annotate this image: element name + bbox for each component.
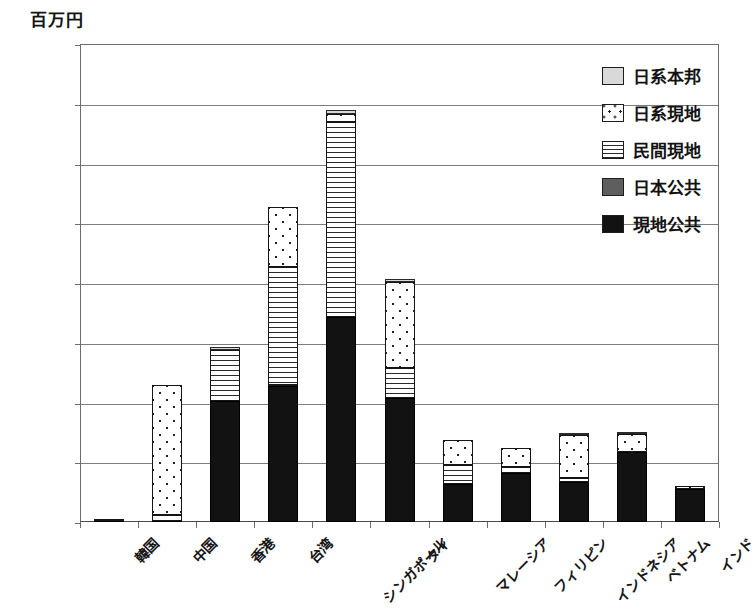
- bar-segment-日系本邦: [385, 279, 415, 282]
- bar-segment-現地公共: [501, 473, 531, 522]
- x-tick-mark: [370, 522, 371, 528]
- bar-segment-日系現地: [501, 448, 531, 467]
- x-axis-label-香港: 香港: [245, 533, 279, 567]
- legend-label-genchi_koukyou: 現地公共: [633, 211, 701, 236]
- x-tick-mark: [429, 522, 430, 528]
- x-axis-label-マレーシア: マレーシア: [490, 533, 554, 597]
- bar-segment-民間現地: [559, 478, 589, 482]
- x-axis-label-中国: 中国: [187, 533, 221, 567]
- legend: 日系本邦日系現地民間現地日本公共現地公共: [602, 57, 752, 242]
- bar-インド[interactable]: [675, 486, 705, 522]
- bar-韓国[interactable]: [94, 521, 124, 522]
- bar-フィリピン[interactable]: [501, 448, 531, 522]
- legend-item-nikkei_genchi[interactable]: 日系現地: [602, 94, 752, 131]
- bar-中国[interactable]: [152, 385, 182, 522]
- bar-segment-民間現地: [501, 467, 531, 473]
- bar-segment-日系現地: [268, 207, 298, 266]
- bar-segment-民間現地: [210, 350, 240, 401]
- bar-インドネシア[interactable]: [559, 434, 589, 522]
- bar-segment-現地公共: [675, 489, 705, 522]
- x-tick-mark: [80, 522, 81, 528]
- bar-segment-現地公共: [559, 482, 589, 522]
- y-axis-unit-title: 百万円: [30, 6, 84, 31]
- legend-swatch-nihon_koukyou: [602, 178, 624, 196]
- legend-swatch-nikkei_genchi: [602, 104, 624, 122]
- bar-香港[interactable]: [210, 347, 240, 522]
- bar-segment-日系現地: [326, 114, 356, 122]
- legend-swatch-genchi_koukyou: [602, 215, 624, 233]
- x-tick-mark: [487, 522, 488, 528]
- bar-segment-民間現地: [326, 122, 356, 318]
- bar-segment-日系本邦: [617, 432, 647, 434]
- x-tick-mark: [312, 522, 313, 528]
- bar-segment-現地公共: [443, 484, 473, 522]
- x-axis-label-インド: インド: [714, 533, 755, 577]
- bar-segment-日系現地: [385, 282, 415, 368]
- bar-segment-民間現地: [268, 267, 298, 385]
- bar-台湾[interactable]: [268, 207, 298, 522]
- bar-segment-日系現地: [675, 486, 705, 489]
- x-axis-label-台湾: 台湾: [304, 533, 338, 567]
- bar-シンガポール[interactable]: [326, 110, 356, 522]
- legend-label-minkan_genchi: 民間現地: [633, 137, 701, 162]
- bar-segment-日系現地: [152, 385, 182, 516]
- x-tick-mark: [603, 522, 604, 528]
- legend-swatch-nikkei_honpou: [602, 67, 624, 85]
- legend-item-nihon_koukyou[interactable]: 日本公共: [602, 168, 752, 205]
- x-axis-label-韓国: 韓国: [129, 533, 163, 567]
- bar-segment-日系現地: [559, 435, 589, 478]
- legend-label-nikkei_genchi: 日系現地: [633, 100, 701, 125]
- bar-segment-日系現地: [617, 434, 647, 452]
- x-tick-mark: [719, 522, 720, 528]
- bar-segment-民間現地: [443, 465, 473, 484]
- bar-タイ[interactable]: [385, 279, 415, 522]
- bar-segment-現地公共: [326, 317, 356, 522]
- bar-segment-現地公共: [210, 401, 240, 522]
- bar-segment-日系本邦: [326, 110, 356, 113]
- x-tick-mark: [661, 522, 662, 528]
- legend-label-nihon_koukyou: 日本公共: [633, 174, 701, 199]
- stacked-bar-chart: 百万円 020,00040,00060,00080,000100,000120,…: [0, 0, 755, 615]
- x-tick-mark: [254, 522, 255, 528]
- legend-item-nikkei_honpou[interactable]: 日系本邦: [602, 57, 752, 94]
- bar-segment-現地公共: [385, 398, 415, 522]
- x-tick-mark: [138, 522, 139, 528]
- legend-item-genchi_koukyou[interactable]: 現地公共: [602, 205, 752, 242]
- bar-segment-日系現地: [443, 440, 473, 465]
- bar-segment-民間現地: [152, 515, 182, 521]
- x-tick-mark: [196, 522, 197, 528]
- bar-segment-日系本邦: [559, 433, 589, 435]
- legend-label-nikkei_honpou: 日系本邦: [633, 63, 701, 88]
- bar-segment-現地公共: [268, 386, 298, 522]
- legend-item-minkan_genchi[interactable]: 民間現地: [602, 131, 752, 168]
- legend-swatch-minkan_genchi: [602, 141, 624, 159]
- bar-segment-日系本邦: [210, 347, 240, 350]
- bar-segment-現地公共: [617, 452, 647, 522]
- bar-マレーシア[interactable]: [443, 440, 473, 522]
- x-tick-mark: [545, 522, 546, 528]
- x-axis-label-フィリピン: フィリピン: [548, 533, 612, 597]
- bar-segment-民間現地: [94, 519, 124, 521]
- bar-segment-民間現地: [385, 368, 415, 398]
- bar-ベトナム[interactable]: [617, 433, 647, 522]
